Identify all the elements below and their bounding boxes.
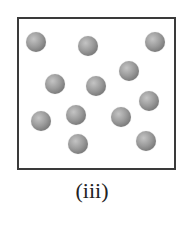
- particle-sphere: [31, 111, 51, 131]
- particle-sphere: [86, 76, 106, 96]
- particle-sphere: [26, 32, 46, 52]
- figure-label: (iii): [0, 178, 184, 204]
- particle-sphere: [45, 74, 65, 94]
- particle-sphere: [136, 131, 156, 151]
- particle-sphere: [78, 36, 98, 56]
- particle-sphere: [119, 61, 139, 81]
- particle-sphere: [145, 32, 165, 52]
- particle-sphere: [111, 107, 131, 127]
- particle-sphere: [68, 134, 88, 154]
- particle-sphere: [139, 91, 159, 111]
- particle-sphere: [66, 105, 86, 125]
